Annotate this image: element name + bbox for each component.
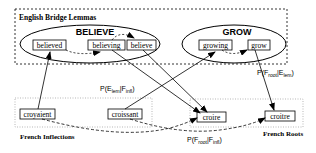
- word-believing: believing: [93, 41, 121, 50]
- arrow-croyaient-to-believed: [38, 52, 50, 109]
- arrow-believing-to-croire: [112, 50, 200, 113]
- prob-label-lem-given-infl: P(Elem|Finfl): [100, 85, 135, 94]
- word-believed: believed: [37, 41, 63, 50]
- word-growing: growing: [203, 41, 228, 50]
- inflection-croyaient: croyaient: [24, 110, 53, 119]
- root-croire: croire: [203, 113, 221, 122]
- lemma-believe: BELIEVE believed believing believe: [20, 25, 160, 63]
- word-grow: grow: [251, 41, 267, 50]
- prob-label-root-given-infl: P(Froot|Finfl): [187, 136, 222, 145]
- french-inflections-label: French Inflections: [20, 133, 75, 141]
- lemma-believe-title: BELIEVE: [76, 27, 115, 37]
- french-roots-label: French Roots: [263, 130, 303, 138]
- word-believe: believe: [131, 41, 153, 50]
- arrow-croissant-to-growing: [125, 52, 215, 109]
- french-roots-group: croire croitre French Roots: [190, 99, 303, 138]
- lemma-grow: GROW growing grow: [182, 25, 286, 63]
- lemma-grow-title: GROW: [223, 27, 253, 37]
- arrow-believe-to-croire: [143, 50, 207, 112]
- diagram-canvas: English Bridge Lemmas BELIEVE believed b…: [0, 0, 316, 153]
- prob-label-root-given-lem: P(Froot|Elem): [257, 69, 294, 78]
- english-bridge-lemmas-label: English Bridge Lemmas: [19, 13, 96, 22]
- inflection-croissant: croissant: [112, 110, 140, 119]
- dashed-arrow-believing-to-believe: [112, 34, 134, 40]
- dashed-arrow-croyaient-to-croire: [42, 118, 197, 132]
- dashed-arrow-believed-to-believing: [66, 50, 100, 54]
- root-croitre: croitre: [270, 112, 290, 121]
- dashed-arrow-growing-to-grow: [222, 50, 247, 54]
